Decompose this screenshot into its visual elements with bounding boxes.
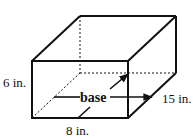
prism-diagram: base 6 in. 15 in. 8 in. <box>0 0 193 138</box>
base-diagonal-arrow <box>110 74 128 89</box>
top-right-edge <box>128 16 176 61</box>
base-label: base <box>80 90 106 105</box>
depth-label: 15 in. <box>162 91 192 106</box>
height-label: 6 in. <box>3 75 26 90</box>
width-label: 8 in. <box>66 123 89 138</box>
hidden-left-bottom-edge <box>32 73 80 118</box>
top-left-edge <box>32 16 80 61</box>
base-diagonal-arrow-lower <box>78 107 90 118</box>
